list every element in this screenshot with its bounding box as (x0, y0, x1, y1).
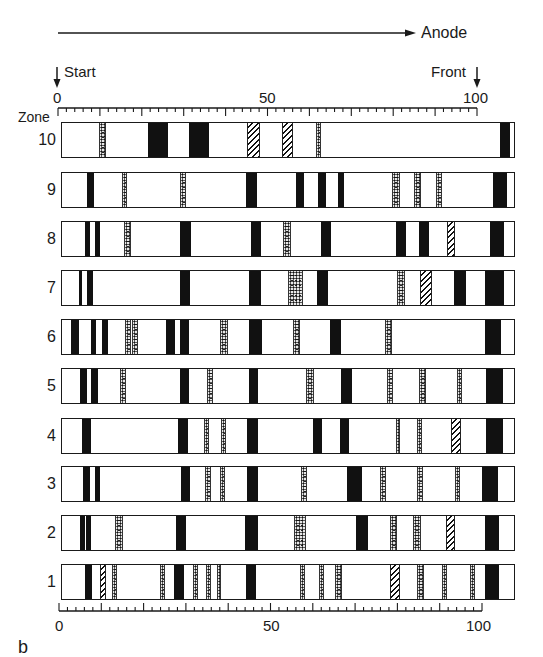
zone-strip-10 (61, 122, 515, 158)
band-solid (249, 271, 261, 305)
band-solid (485, 320, 501, 354)
band-solid (296, 173, 304, 207)
band-solid (500, 123, 510, 157)
zone-label: 2 (28, 525, 56, 541)
band-solid (85, 565, 92, 599)
band-hatched (446, 516, 455, 550)
band-solid (330, 320, 341, 354)
bottom-scale-tick-50: 50 (263, 618, 280, 633)
band-solid (85, 222, 90, 256)
zone-label: 6 (28, 329, 56, 345)
band-dotted (396, 419, 400, 453)
band-solid (318, 173, 326, 207)
band-solid (340, 419, 349, 453)
zone-strip-7 (61, 270, 515, 306)
front-label: Front (431, 64, 466, 79)
zone-strip-2 (61, 515, 515, 551)
band-solid (83, 467, 90, 501)
zone-label: 9 (28, 182, 56, 198)
band-solid (341, 369, 352, 403)
band-dotted (414, 173, 421, 207)
band-dotted (221, 419, 226, 453)
front-arrow-icon (474, 67, 481, 88)
band-dotted (417, 419, 422, 453)
band-solid (80, 369, 87, 403)
bottom-scale-ruler (59, 603, 482, 611)
zone-strip-5 (61, 368, 515, 404)
anode-arrow-icon (58, 30, 416, 37)
band-solid (251, 222, 261, 256)
band-dotted (392, 173, 400, 207)
top-scale-tick-100: 100 (463, 90, 488, 105)
panel-label: b (18, 638, 28, 656)
bottom-scale-tick-100: 100 (466, 618, 491, 633)
zone-label: 10 (28, 132, 56, 148)
zone-label: 8 (28, 231, 56, 247)
bottom-scale-tick-0: 0 (55, 618, 63, 633)
band-dotted (442, 565, 447, 599)
zone-label: 7 (28, 280, 56, 296)
band-solid (482, 467, 498, 501)
band-dotted (124, 222, 131, 256)
band-dotted (294, 516, 306, 550)
band-hatched (447, 222, 455, 256)
band-dotted (387, 369, 393, 403)
band-dotted (283, 222, 291, 256)
band-dotted (457, 369, 462, 403)
zone-label: 1 (28, 574, 56, 590)
band-dotted (112, 565, 117, 599)
band-dotted (193, 565, 198, 599)
band-solid (247, 467, 258, 501)
band-solid (490, 222, 504, 256)
start-arrow-icon (54, 67, 61, 88)
band-dotted (132, 320, 138, 354)
band-solid (180, 222, 191, 256)
band-solid (246, 565, 256, 599)
anode-label: Anode (421, 25, 467, 41)
band-solid (485, 516, 499, 550)
band-solid (249, 369, 258, 403)
zone-strip-9 (61, 172, 515, 208)
band-solid (87, 271, 93, 305)
band-dotted (205, 467, 211, 501)
band-dotted (301, 467, 307, 501)
zone-strip-3 (61, 466, 515, 502)
band-dotted (397, 271, 405, 305)
start-label: Start (64, 64, 96, 79)
band-dotted (455, 467, 460, 501)
band-dotted (413, 516, 421, 550)
band-solid (178, 419, 188, 453)
zone-label: 5 (28, 378, 56, 394)
band-solid (246, 173, 257, 207)
band-solid (82, 419, 91, 453)
zone-strip-4 (61, 418, 515, 454)
band-dotted (122, 173, 127, 207)
band-solid (317, 271, 328, 305)
band-dotted (206, 565, 211, 599)
band-solid (347, 467, 362, 501)
band-dotted (306, 369, 314, 403)
band-hatched (100, 565, 106, 599)
band-solid (419, 222, 429, 256)
band-dotted (470, 565, 475, 599)
band-dotted (300, 565, 305, 599)
band-solid (249, 320, 262, 354)
band-dotted (419, 369, 426, 403)
zone-label: 3 (28, 476, 56, 492)
band-hatched (390, 565, 400, 599)
band-dotted (293, 320, 300, 354)
band-dotted (335, 565, 342, 599)
band-solid (180, 271, 190, 305)
band-dotted (217, 565, 221, 599)
band-dotted (220, 320, 228, 354)
band-solid (91, 369, 98, 403)
band-solid (313, 419, 322, 453)
band-solid (181, 467, 190, 501)
band-dotted (319, 565, 324, 599)
band-dotted (99, 123, 106, 157)
zone-strip-8 (61, 221, 515, 257)
band-solid (102, 320, 108, 354)
band-hatched (420, 271, 432, 305)
band-solid (189, 123, 209, 157)
zone-strip-1 (61, 564, 515, 600)
